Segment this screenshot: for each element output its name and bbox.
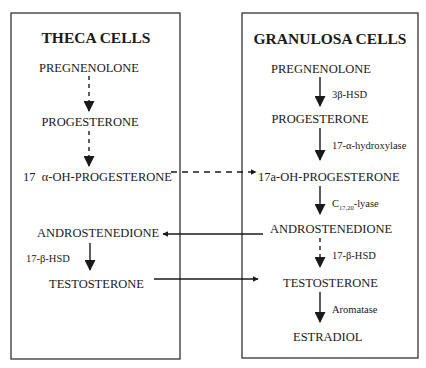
granulosa-androstenedione: ANDROSTENEDIONE (270, 222, 393, 236)
granulosa-enzyme-17-alpha-hydroxylase: 17-α-hydroxylase (332, 140, 407, 151)
granulosa-estradiol: ESTRADIOL (293, 330, 362, 344)
granulosa-progesterone: PROGESTERONE (271, 112, 369, 126)
granulosa-testosterone: TESTOSTERONE (283, 276, 378, 290)
granulosa-title: GRANULOSA CELLS (254, 30, 407, 47)
granulosa-pregnenolone: PREGNENOLONE (271, 62, 371, 76)
granulosa-enzyme-3-beta-hsd: 3β-HSD (332, 89, 368, 100)
lyase-subscript: 17,20 (339, 204, 354, 211)
granulosa-enzyme-aromatase: Aromatase (332, 304, 378, 315)
steroidogenesis-diagram: THECA CELLS PREGNENOLONE PROGESTERONE 17… (0, 0, 426, 368)
theca-title: THECA CELLS (42, 29, 151, 46)
theca-pregnenolone: PREGNENOLONE (39, 61, 139, 75)
theca-testosterone: TESTOSTERONE (49, 277, 144, 291)
theca-17-oh-progesterone: 17 α-OH-PROGESTERONE (23, 170, 172, 184)
granulosa-enzyme-c17-20-lyase: C17,20-lyase (332, 198, 379, 211)
granulosa-enzyme-17-beta-hsd: 17-β-HSD (332, 250, 376, 261)
theca-progesterone: PROGESTERONE (41, 115, 139, 129)
lyase-c: C (332, 198, 339, 209)
theca-enzyme-17-beta-hsd: 17-β-HSD (26, 253, 70, 264)
granulosa-17a-oh-progesterone: 17a-OH-PROGESTERONE (258, 170, 400, 184)
lyase-suffix: -lyase (354, 198, 379, 209)
theca-androstenedione: ANDROSTENEDIONE (37, 226, 160, 240)
